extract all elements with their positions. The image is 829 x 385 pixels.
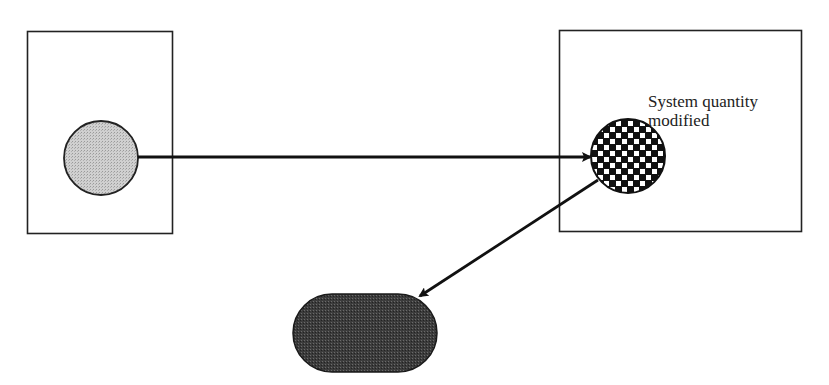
target-label-line1: System quantity [648,92,758,111]
result-pill [293,294,437,372]
output-arrow [420,180,598,296]
target-label-line2: modified [648,111,758,130]
target-box [560,31,802,232]
target-label: System quantity modified [648,92,758,130]
modified-circle [591,119,665,193]
diagram-canvas [0,0,829,385]
source-circle [64,121,138,195]
